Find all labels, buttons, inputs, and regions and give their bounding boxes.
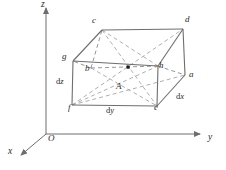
area-label-A: A	[116, 82, 122, 91]
edge-c-d	[102, 29, 183, 30]
origin-label: O	[48, 134, 55, 143]
diagonal-b-e	[91, 68, 157, 106]
dx-variable: x	[180, 91, 184, 101]
axis-label-y: y	[208, 133, 212, 143]
box-diagram-svg	[0, 0, 226, 170]
vertex-label-f: f	[68, 103, 71, 112]
x-axis-line	[21, 134, 46, 155]
edge-h-e	[157, 66, 158, 106]
vertex-label-c: c	[92, 16, 96, 25]
axis-label-x: x	[8, 147, 12, 157]
diagonal-f-a	[72, 75, 185, 105]
vertex-label-d: d	[185, 15, 190, 24]
dz-variable: z	[60, 76, 63, 86]
edge-b-h-hidden	[91, 66, 158, 68]
edge-e-f	[72, 105, 157, 106]
edge-f-g	[72, 61, 73, 105]
dimension-label-dz: dz	[56, 77, 64, 86]
vertex-label-g: g	[62, 52, 67, 61]
vertex-label-h: h	[159, 61, 164, 70]
dimension-label-dy: dy	[106, 106, 114, 115]
diagonal-c-h	[102, 30, 158, 66]
center-point-marker	[127, 66, 130, 69]
vertex-label-e: e	[154, 103, 158, 112]
dimension-label-dx: dx	[176, 92, 184, 101]
dy-variable: y	[110, 105, 114, 115]
edge-d-a	[183, 29, 185, 75]
axis-label-z: z	[41, 0, 45, 10]
vertex-label-a: a	[189, 70, 194, 79]
figure-canvas: z y x O c d g b h a f e dz dy dx A	[0, 0, 226, 170]
vertex-label-b: b	[85, 64, 90, 73]
